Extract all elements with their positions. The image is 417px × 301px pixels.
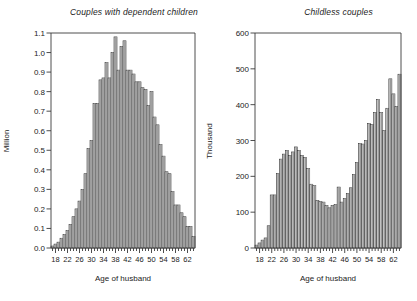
bar-shading [79, 201, 81, 248]
y-tick-label: 0.5 [34, 146, 45, 155]
x-tick-label: 18 [51, 255, 59, 264]
bar-shading [64, 234, 66, 248]
y-tick-label: 300 [236, 136, 249, 145]
y-tick-label: 0.3 [34, 185, 45, 194]
bar-shading [181, 213, 183, 248]
y-tick-label: 0.9 [34, 68, 45, 77]
bar-shading [130, 70, 132, 248]
bar-shading [85, 174, 87, 248]
bar-shading [190, 227, 192, 249]
panel-title-left: Couples with dependent children [0, 7, 238, 17]
y-axis-label-left: Million [2, 129, 11, 152]
panel-couples-with-dependent-children: Couples with dependent children Million … [0, 0, 208, 301]
x-tick-label: 58 [171, 255, 179, 264]
x-tick-label: 46 [341, 255, 349, 264]
bar-shading [353, 175, 355, 248]
bar-shading [88, 148, 90, 248]
x-tick-label: 46 [135, 255, 143, 264]
bars-group [51, 37, 195, 248]
bar-shading [271, 195, 273, 248]
panel-childless-couples: Childless couples Thousand Age of husban… [208, 0, 417, 301]
figure-two-panel-histograms: Couples with dependent children Million … [0, 0, 417, 301]
x-tick-label: 62 [183, 255, 191, 264]
bar-shading [163, 156, 165, 248]
x-tick-label: 30 [292, 255, 300, 264]
bar-shading [118, 70, 120, 248]
y-tick-label: 0 [245, 244, 249, 253]
x-tick-label: 58 [377, 255, 385, 264]
bar-shading [142, 88, 144, 248]
x-tick-label: 22 [63, 255, 71, 264]
y-tick-label: 0.0 [34, 244, 45, 253]
bar-shading [169, 174, 171, 248]
bar-shading [100, 80, 102, 248]
y-tick-label: 0.4 [34, 165, 45, 174]
y-tick-label: 200 [236, 172, 249, 181]
y-tick-label: 400 [236, 100, 249, 109]
x-tick-label: 26 [280, 255, 288, 264]
bar-shading [393, 94, 395, 248]
x-tick-label: 30 [87, 255, 95, 264]
x-tick-label: 26 [75, 255, 83, 264]
panel-title-right: Childless couples [208, 7, 417, 17]
bar-shading [121, 47, 123, 248]
bar-shading [91, 141, 93, 249]
bar-shading [372, 124, 374, 248]
bar-shading [375, 113, 377, 248]
bar-shading [299, 151, 301, 248]
bar-shading [160, 144, 162, 248]
bar-shading [136, 82, 138, 248]
bar-shading [55, 244, 57, 248]
bar-shading [187, 227, 189, 249]
x-tick-label: 38 [316, 255, 324, 264]
x-tick-label: 18 [255, 255, 263, 264]
bar-shading [360, 143, 362, 248]
bars-group [255, 74, 401, 248]
bar-shading [172, 191, 174, 248]
bar-shading [103, 78, 105, 248]
bar-shading [287, 151, 289, 248]
bar-shading [82, 189, 84, 248]
bar-shading [280, 159, 282, 248]
x-tick-label: 34 [304, 255, 312, 264]
bar-shading [302, 156, 304, 248]
bar-shading [396, 106, 398, 248]
bar-shading [335, 204, 337, 248]
bar-shading [284, 154, 286, 248]
bar-shading [70, 225, 72, 248]
bar-shading [154, 117, 156, 248]
bar-shading [184, 217, 186, 248]
x-tick-label: 42 [328, 255, 336, 264]
y-tick-label: 0.6 [34, 126, 45, 135]
bar-shading [73, 217, 75, 248]
bar-shading [357, 163, 359, 248]
bar-shading [175, 205, 177, 248]
y-tick-label: 0.7 [34, 107, 45, 116]
x-tick-label: 62 [389, 255, 397, 264]
y-axis-label-right: Thousand [205, 123, 214, 159]
bar-shading [341, 202, 343, 248]
x-tick-label: 22 [268, 255, 276, 264]
bar-shading [145, 90, 147, 248]
bar-shading [97, 103, 99, 248]
x-tick-label: 50 [147, 255, 155, 264]
y-tick-label: 0.2 [34, 204, 45, 213]
bar-shading [112, 53, 114, 248]
bar-shading [94, 103, 96, 248]
y-tick-label: 1.0 [34, 48, 45, 57]
bar-shading [317, 201, 319, 248]
bar-shading [109, 78, 111, 248]
bar-shading [115, 37, 117, 248]
y-tick-label: 100 [236, 208, 249, 217]
bar-shading [151, 92, 153, 248]
chart-svg [255, 33, 417, 278]
bar-shading [61, 238, 63, 248]
bar-shading [106, 62, 108, 248]
bar-shading [290, 156, 292, 248]
bar-shading [378, 99, 380, 248]
y-tick-label: 600 [236, 29, 249, 38]
bar-shading [157, 125, 159, 248]
bar-shading [363, 144, 365, 248]
bar-shading [305, 158, 307, 248]
bar-shading [326, 206, 328, 248]
